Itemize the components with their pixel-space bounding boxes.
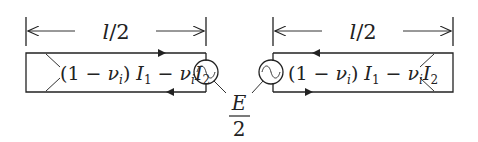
left-dimension-label: l/2	[102, 20, 129, 44]
right-ac-source	[252, 60, 283, 93]
right-source-leader-line	[252, 81, 263, 93]
left-top-current-arrow-icon	[158, 49, 166, 57]
left-line-section: (1 − νi) I1 − νiI2	[26, 49, 210, 96]
right-current-expression: (1 − νi) I1 − νiI2	[288, 62, 438, 87]
right-top-current-arrow-icon	[312, 49, 320, 57]
right-sine-wave-icon	[262, 66, 280, 78]
left-current-expression: (1 − νi) I1 − νiI2	[60, 62, 210, 87]
source-voltage-numerator: E	[231, 91, 247, 115]
left-bracket-top	[46, 54, 60, 67]
right-line-section: (1 − νi) I1 − νiI2	[273, 49, 453, 96]
right-dimension-label: l/2	[349, 20, 376, 44]
left-source-leader-line	[214, 81, 226, 93]
source-voltage-label: E 2	[229, 91, 250, 141]
right-bottom-current-arrow-icon	[305, 88, 313, 96]
left-bracket-bottom	[46, 78, 60, 91]
source-voltage-denominator: 2	[233, 117, 246, 141]
right-dimension: l/2	[273, 17, 453, 46]
transmission-line-diagram: l/2 (1 − νi) I1 − νiI2 l/2	[0, 0, 478, 142]
left-bottom-current-arrow-icon	[166, 88, 174, 96]
left-dimension: l/2	[26, 17, 206, 46]
